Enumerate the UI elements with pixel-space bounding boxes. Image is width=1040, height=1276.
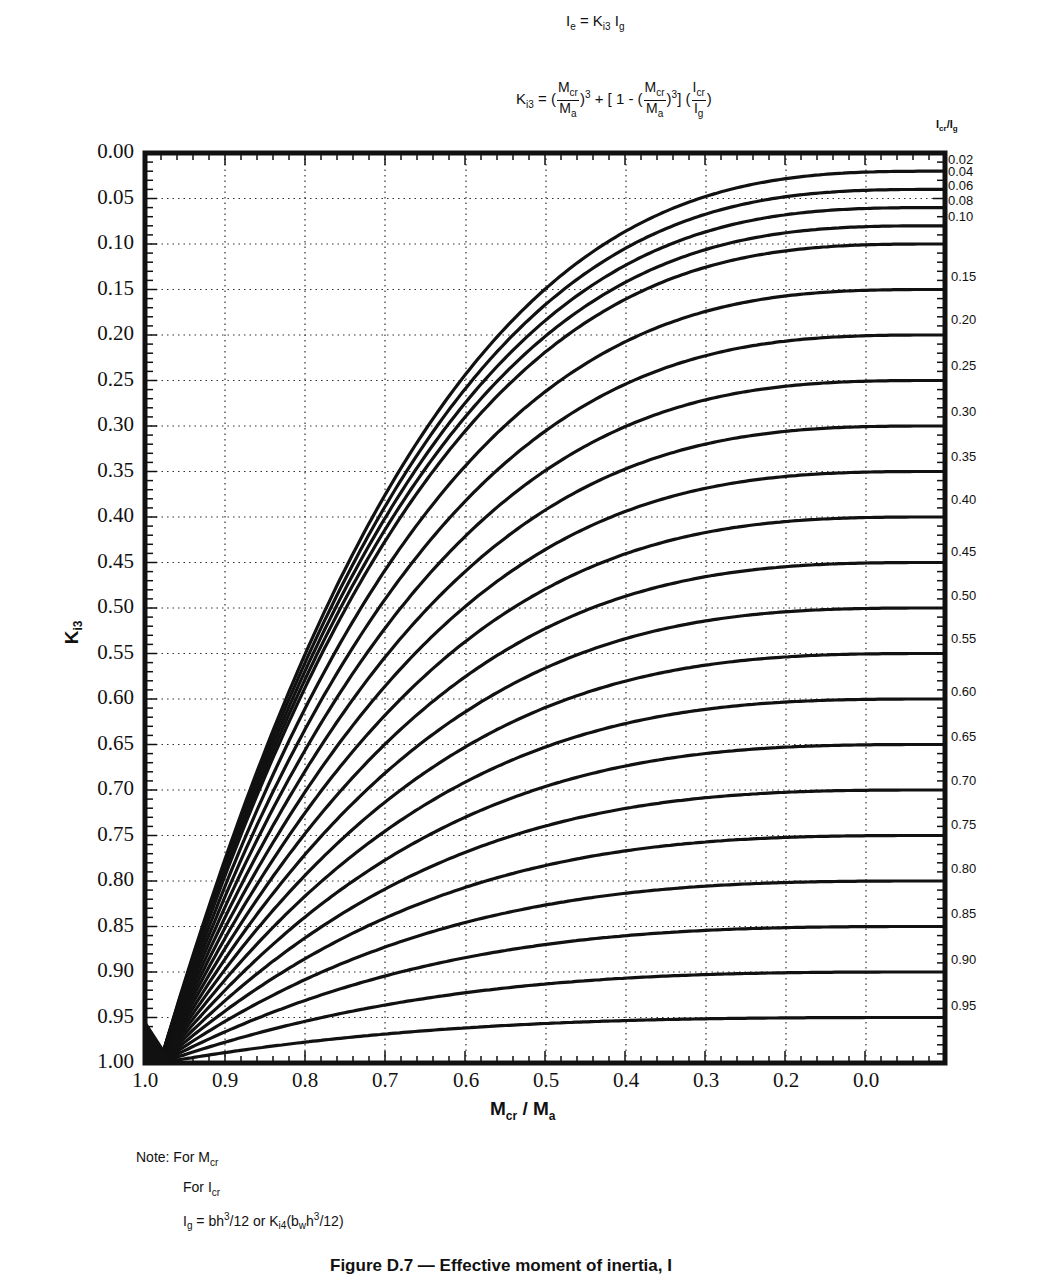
curve-label: 0.20 [951, 312, 976, 327]
curve-label: 0.40 [951, 492, 976, 507]
y-tick-label: 0.00 [62, 139, 134, 164]
y-tick-label: 0.25 [62, 367, 134, 392]
curve-icr-ig-0.95 [160, 1018, 945, 1064]
y-tick-label: 0.90 [62, 958, 134, 983]
figure-caption: Figure D.7 — Effective moment of inertia… [330, 1256, 672, 1276]
curve-label: 0.04 [948, 164, 973, 179]
note-text: = bh [192, 1212, 224, 1228]
curve-label: 0.55 [951, 631, 976, 646]
curve-label: 0.80 [951, 861, 976, 876]
curve-label: 0.70 [951, 773, 976, 788]
x-tick-label: 0.8 [275, 1068, 335, 1093]
note-text: h [306, 1212, 314, 1228]
y-tick-label: 0.45 [62, 549, 134, 574]
y-tick-label: 0.40 [62, 503, 134, 528]
x-tick-label: 0.7 [355, 1068, 415, 1093]
x-tick-label: 0.6 [436, 1068, 496, 1093]
note-line-1: Note: For Mcr [136, 1145, 344, 1175]
x-tick-label: 0.4 [596, 1068, 656, 1093]
note-block: Note: For Mcr For Icr Ig = bh3/12 or Ki4… [136, 1145, 344, 1238]
curve-label: 0.08 [948, 193, 973, 208]
note-text: /12) [319, 1212, 343, 1228]
curve-label: 0.25 [951, 358, 976, 373]
y-tick-label: 0.80 [62, 867, 134, 892]
curve-label: 0.45 [951, 544, 976, 559]
y-tick-label: 0.20 [62, 321, 134, 346]
axis-title-text: M [490, 1098, 506, 1119]
axis-title-sub: a [549, 1109, 556, 1123]
y-tick-label: 0.50 [62, 594, 134, 619]
curve-icr-ig-0.08 [160, 226, 945, 1063]
curve-icr-ig-0.15 [160, 290, 945, 1064]
note-line-3: Ig = bh3/12 or Ki4(bwh3/12) [136, 1205, 344, 1238]
curve-label: 0.85 [951, 906, 976, 921]
axis-title-text: / [517, 1098, 533, 1119]
curve-label: 0.75 [951, 817, 976, 832]
y-tick-label: 0.05 [62, 185, 134, 210]
curve-label: 0.15 [951, 269, 976, 284]
curve-icr-ig-0.02 [160, 171, 945, 1063]
note-sub: cr [210, 1157, 218, 1168]
y-tick-label: 0.85 [62, 913, 134, 938]
curve-label: 0.95 [951, 998, 976, 1013]
note-text: Note: For M [136, 1149, 210, 1165]
curve-label: 0.60 [951, 684, 976, 699]
axis-title-sub: cr [506, 1109, 517, 1123]
curve-label: 0.30 [951, 404, 976, 419]
y-tick-label: 0.95 [62, 1004, 134, 1029]
curve-label: 0.65 [951, 729, 976, 744]
y-tick-label: 0.10 [62, 230, 134, 255]
curve-label: 0.06 [948, 178, 973, 193]
curve-icr-ig-0.85 [160, 927, 945, 1064]
x-tick-label: 0.0 [836, 1068, 896, 1093]
y-tick-label: 0.55 [62, 640, 134, 665]
note-text: For I [183, 1179, 212, 1195]
axis-title-text: M [533, 1098, 549, 1119]
curve-label: 0.50 [951, 588, 976, 603]
y-tick-label: 0.35 [62, 458, 134, 483]
curve-label: 0.10 [948, 209, 973, 224]
curve-label: 0.90 [951, 952, 976, 967]
y-tick-label: 0.30 [62, 412, 134, 437]
y-tick-label: 0.15 [62, 276, 134, 301]
y-tick-label: 0.60 [62, 685, 134, 710]
y-tick-label: 0.75 [62, 822, 134, 847]
y-tick-label: 0.70 [62, 776, 134, 801]
note-text: (b [286, 1212, 298, 1228]
note-text: /12 or K [230, 1212, 279, 1228]
x-axis-title: Mcr / Ma [490, 1098, 556, 1123]
curve-label: 0.35 [951, 449, 976, 464]
curve-icr-ig-0.45 [160, 563, 945, 1064]
x-tick-label: 0.9 [195, 1068, 255, 1093]
note-sub: cr [212, 1187, 220, 1198]
x-tick-label: 0.2 [756, 1068, 816, 1093]
x-tick-label: 0.3 [676, 1068, 736, 1093]
axis-title-sub: i3 [71, 621, 85, 631]
y-tick-label: 0.65 [62, 731, 134, 756]
x-tick-label: 0.5 [516, 1068, 576, 1093]
x-tick-label: 1.0 [115, 1068, 175, 1093]
note-sub: w [299, 1220, 306, 1231]
note-line-2: For Icr [136, 1175, 344, 1205]
